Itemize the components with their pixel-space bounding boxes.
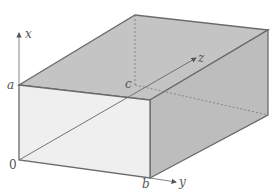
z-axis-label: z xyxy=(197,51,205,65)
label-origin: 0 xyxy=(9,158,17,172)
label-a: a xyxy=(7,78,14,92)
y-axis xyxy=(150,178,176,182)
y-axis-label: y xyxy=(178,175,186,189)
x-axis-label: x xyxy=(25,27,32,41)
box-diagram: x y z a 0 b c xyxy=(0,0,275,195)
label-c: c xyxy=(125,77,132,91)
label-b: b xyxy=(142,177,150,191)
front-face xyxy=(19,85,150,178)
